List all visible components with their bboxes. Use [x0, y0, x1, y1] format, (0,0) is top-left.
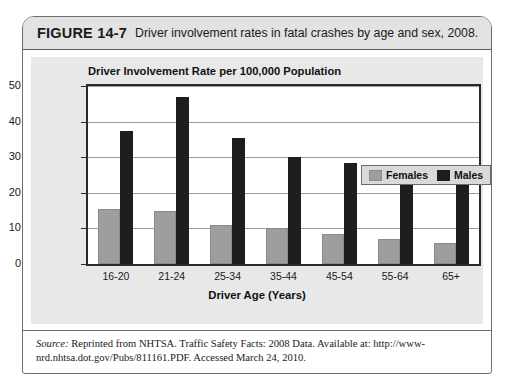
y-tick-label-40: 40	[0, 115, 21, 127]
figure-number: FIGURE 14-7	[37, 25, 127, 41]
bar-group	[200, 86, 256, 264]
bar-males	[400, 171, 413, 264]
legend-label-females: Females	[386, 169, 428, 181]
chart-title: Driver Involvement Rate per 100,000 Popu…	[88, 65, 341, 77]
y-tick-mark-50	[81, 86, 86, 87]
bar-females	[322, 234, 344, 264]
bar-group	[256, 86, 312, 264]
source-text: Reprinted from NHTSA. Traffic Safety Fac…	[36, 338, 425, 363]
bar-males	[120, 131, 133, 265]
bar-females	[378, 239, 400, 264]
bar-males	[456, 182, 469, 264]
legend-swatch-females-icon	[369, 170, 382, 181]
y-tick-mark-10	[81, 228, 86, 229]
y-tick-mark-20	[81, 193, 86, 194]
x-tick-label-25-34: 25-34	[200, 270, 256, 282]
y-tick-label-20: 20	[0, 186, 21, 198]
y-tick-label-50: 50	[0, 79, 21, 91]
y-tick-label-0: 0	[0, 257, 21, 269]
x-tick-label-55-64: 55-64	[367, 270, 423, 282]
figure-caption: Driver involvement rates in fatal crashe…	[135, 26, 478, 40]
bar-group	[88, 86, 144, 264]
x-tick-label-65+: 65+	[423, 270, 479, 282]
legend-item-females: Females	[369, 169, 428, 181]
source-note: Source: Reprinted from NHTSA. Traffic Sa…	[36, 337, 478, 366]
x-axis-label: Driver Age (Years)	[31, 289, 483, 301]
bar-females	[434, 243, 456, 264]
bar-group	[311, 86, 367, 264]
x-tick-label-21-24: 21-24	[144, 270, 200, 282]
figure-header: FIGURE 14-7 Driver involvement rates in …	[23, 17, 491, 50]
bar-group	[144, 86, 200, 264]
legend-item-males: Males	[437, 169, 483, 181]
y-tick-mark-30	[81, 157, 86, 158]
bar-males	[344, 163, 357, 264]
chart-panel: Driver Involvement Rate per 100,000 Popu…	[31, 57, 483, 324]
figure-card: FIGURE 14-7 Driver involvement rates in …	[22, 16, 492, 374]
chart-legend: Females Males	[361, 165, 491, 185]
bar-males	[232, 138, 245, 264]
source-label: Source:	[36, 338, 69, 349]
bar-males	[288, 157, 301, 264]
bar-females	[210, 225, 232, 264]
x-tick-label-45-54: 45-54	[311, 270, 367, 282]
legend-label-males: Males	[454, 169, 483, 181]
bar-females	[154, 211, 176, 264]
source-divider	[23, 330, 491, 331]
bar-females	[98, 209, 120, 264]
x-tick-label-16-20: 16-20	[88, 270, 144, 282]
bar-females	[266, 228, 288, 264]
y-tick-mark-40	[81, 122, 86, 123]
legend-swatch-males-icon	[437, 170, 450, 181]
x-tick-label-35-44: 35-44	[256, 270, 312, 282]
bar-males	[176, 97, 189, 264]
y-tick-label-10: 10	[0, 221, 21, 233]
y-tick-label-30: 30	[0, 150, 21, 162]
y-tick-mark-0	[81, 264, 86, 265]
